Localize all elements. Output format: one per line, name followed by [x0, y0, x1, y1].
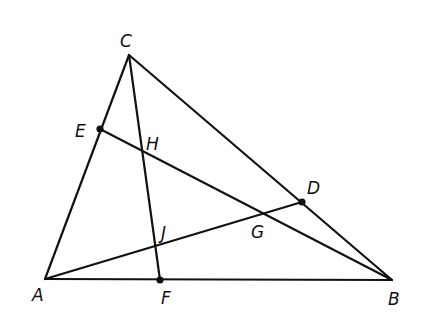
point-f-dot: [156, 276, 163, 283]
label-a: A: [31, 285, 44, 305]
label-g: G: [251, 222, 264, 242]
segment-EB: [100, 129, 392, 280]
triangle-diagram: ABCDEFGHJ: [0, 0, 422, 323]
label-d: D: [307, 178, 320, 198]
label-f: F: [161, 288, 171, 308]
label-c: C: [120, 31, 132, 51]
segment-CA: [45, 55, 129, 279]
point-d-dot: [298, 198, 305, 205]
label-h: H: [146, 134, 159, 154]
segment-AB: [45, 279, 392, 280]
label-j: J: [158, 223, 166, 243]
point-e-dot: [96, 125, 103, 132]
segments: [45, 55, 392, 280]
segment-BC: [129, 55, 392, 280]
points: [96, 125, 305, 283]
label-e: E: [75, 121, 86, 141]
label-b: B: [388, 289, 400, 309]
